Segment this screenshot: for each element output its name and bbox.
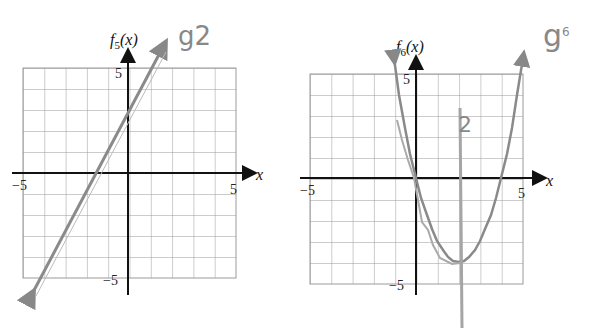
annotation-g6: g6 — [543, 18, 570, 53]
graphs-canvas: f5(x) x −5 5 5 −5 g2 f6(x) x −5 5 5 −5 2… — [0, 0, 605, 328]
annotation-2: 2 — [458, 112, 472, 137]
tick-x-max-f5: 5 — [230, 182, 237, 197]
y-axis-label-f5: f5(x) — [110, 31, 138, 51]
tick-y-max-f5: 5 — [115, 66, 122, 81]
vertical-line-x2 — [460, 108, 462, 328]
tick-y-min-f6: −5 — [389, 278, 404, 293]
annotation-g2: g2 — [178, 21, 211, 51]
tick-x-min-f6: −5 — [300, 183, 315, 198]
y-axis-label-f6: f6(x) — [396, 38, 424, 58]
graph-f5: f5(x) x −5 5 5 −5 g2 — [12, 21, 263, 296]
x-axis-label-f5: x — [255, 166, 263, 183]
graph-f6: f6(x) x −5 5 5 −5 2 g6 — [300, 18, 570, 328]
tick-x-max-f6: 5 — [518, 186, 525, 201]
tick-y-max-f6: 5 — [403, 72, 410, 87]
tick-y-min-f5: −5 — [103, 273, 118, 288]
tick-x-min-f5: −5 — [12, 178, 27, 193]
x-axis-label-f6: x — [545, 172, 553, 189]
